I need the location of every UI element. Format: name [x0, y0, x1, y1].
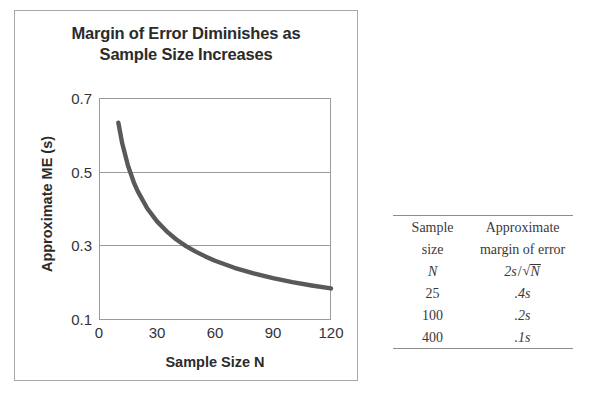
table-row-formula: N 2s/√N [393, 260, 573, 282]
chart-title-line-1: Margin of Error Diminishes as [15, 23, 357, 44]
cell-margin-of-error: .1s [472, 326, 573, 349]
cell-margin-formula: 2s/√N [472, 260, 573, 282]
cell-sample-size: 25 [393, 282, 472, 304]
symbol-N: N [428, 264, 437, 279]
margin-of-error-table: Sample Approximate size margin of error … [393, 215, 573, 349]
margin-of-error-curve-svg [99, 98, 331, 319]
x-axis-title: Sample Size N [99, 354, 331, 370]
radical-icon: √N [523, 263, 541, 280]
plot-area: 0.7 0.5 0.3 0.1 0 30 60 90 120 [99, 98, 331, 319]
table-row: 25 .4s [393, 282, 573, 304]
formula-coefficient: 2s [504, 264, 516, 279]
table-row: 100 .2s [393, 304, 573, 326]
chart-title-line-2: Sample Size Increases [15, 44, 357, 65]
cell-margin-of-error: .2s [472, 304, 573, 326]
x-tick-label-0: 0 [95, 324, 103, 341]
table-header-row-1: Sample Approximate [393, 216, 573, 239]
y-tick-label-0.7: 0.7 [71, 90, 92, 107]
header-sample-line-1: Sample [393, 216, 472, 239]
y-tick-label-0.5: 0.5 [71, 163, 92, 180]
x-tick-label-30: 30 [149, 324, 166, 341]
formula-2s-over-sqrt-N: 2s/√N [504, 263, 541, 280]
margin-of-error-curve [118, 123, 331, 289]
y-tick-label-0.3: 0.3 [71, 237, 92, 254]
cell-sample-size: 100 [393, 304, 472, 326]
margin-of-error-table-wrap: Sample Approximate size margin of error … [393, 215, 573, 349]
header-approximate-line-2: margin of error [472, 238, 573, 260]
x-tick-label-120: 120 [318, 324, 343, 341]
chart-panel: Margin of Error Diminishes as Sample Siz… [14, 10, 358, 381]
y-tick-label-0.1: 0.1 [71, 311, 92, 328]
x-tick-label-60: 60 [207, 324, 224, 341]
cell-margin-of-error: .4s [472, 282, 573, 304]
y-axis-title: Approximate ME (s) [39, 109, 55, 299]
x-tick-label-90: 90 [265, 324, 282, 341]
cell-sample-size: 400 [393, 326, 472, 349]
radical-sign: √ [523, 262, 531, 279]
cell-sample-size-symbol: N [393, 260, 472, 282]
radicand: N [530, 264, 541, 279]
header-sample-line-2: size [393, 238, 472, 260]
gridline-0.1 [99, 319, 331, 320]
table-row: 400 .1s [393, 326, 573, 349]
table-header-row-2: size margin of error [393, 238, 573, 260]
chart-title: Margin of Error Diminishes as Sample Siz… [15, 23, 357, 65]
header-approximate-line-1: Approximate [472, 216, 573, 239]
